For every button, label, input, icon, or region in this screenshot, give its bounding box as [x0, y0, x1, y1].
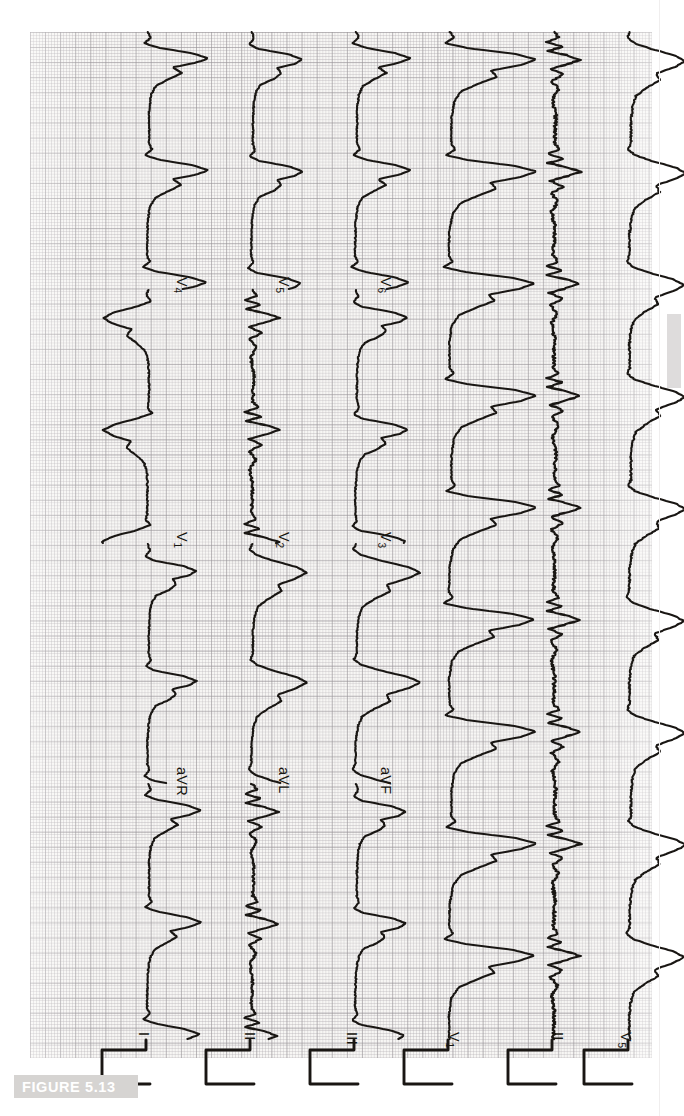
- ecg-trace: [143, 32, 207, 289]
- ecg-trace: [206, 1040, 254, 1084]
- ecg-trace: [145, 544, 197, 783]
- ecg-trace: [444, 32, 536, 1039]
- ecg-trace: [249, 544, 307, 783]
- ecg-trace: [310, 1040, 358, 1084]
- lead-label-III: III: [344, 1032, 360, 1045]
- lead-label-II-rhythm: II: [550, 1032, 566, 1041]
- figure-caption-band: FIGURE 5.13: [14, 1075, 138, 1098]
- ecg-trace: [245, 290, 281, 543]
- lead-label-II: II: [242, 1032, 258, 1041]
- page-edge-line: [659, 0, 660, 1116]
- ecg-trace: [508, 1040, 556, 1084]
- ecg-trace: [102, 290, 152, 543]
- lead-label-V1: V1: [174, 532, 190, 548]
- lead-label-V6: V6: [378, 277, 394, 293]
- figure-container: V4 V1 aVR I V5 V2 aVL II: [0, 0, 684, 1116]
- lead-label-V3: V3: [378, 532, 394, 548]
- lead-label-V1-rhythm: V1: [446, 1032, 462, 1048]
- lead-label-aVL: aVL: [276, 767, 292, 794]
- lead-label-V4: V4: [174, 277, 190, 293]
- ecg-trace: [144, 784, 201, 1039]
- ecg-trace: [546, 32, 582, 1039]
- lead-label-V5: V5: [276, 277, 292, 293]
- lead-label-V2: V2: [276, 532, 292, 548]
- lead-label-I: I: [136, 1032, 152, 1036]
- figure-caption-label: FIGURE 5.13: [14, 1079, 116, 1095]
- ecg-trace: [353, 784, 405, 1039]
- lead-label-aVR: aVR: [174, 767, 190, 796]
- ecg-trace: [353, 290, 407, 543]
- ecg-trace: [248, 32, 302, 289]
- lead-label-V5-rhythm: V5: [618, 1032, 634, 1048]
- page-edge-tab: [667, 314, 681, 388]
- ecg-trace: [626, 32, 684, 1039]
- ecg-grid-background: V4 V1 aVR I V5 V2 aVL II: [30, 32, 652, 1058]
- ecg-trace: [245, 784, 279, 1039]
- ecg-trace: [353, 544, 420, 783]
- ecg-trace-group: [30, 32, 652, 1058]
- lead-label-aVF: aVF: [378, 767, 394, 795]
- ecg-paper-sheet: V4 V1 aVR I V5 V2 aVL II: [10, 10, 662, 1068]
- ecg-trace: [351, 32, 410, 289]
